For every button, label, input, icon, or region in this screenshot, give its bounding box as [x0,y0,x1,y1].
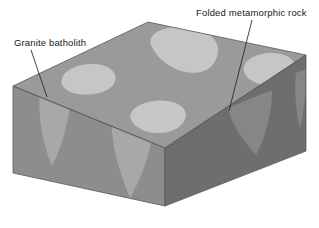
figure-canvas: Granite batholith Folded metamorphic roc… [0,0,319,228]
label-folded-metamorphic-rock: Folded metamorphic rock [196,7,307,18]
label-granite-batholith: Granite batholith [14,37,86,48]
block-diagram: Granite batholith Folded metamorphic roc… [0,0,319,228]
